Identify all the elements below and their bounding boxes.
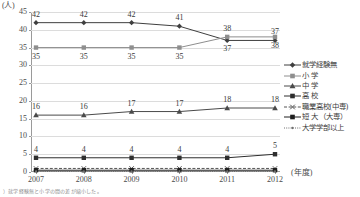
y-axis-tick-mark <box>29 172 31 173</box>
legend-item-5[interactable]: 短 大 （大専） <box>283 112 360 122</box>
legend-item-0[interactable]: 就学経験無 <box>283 60 360 70</box>
data-point-label: 37 <box>223 45 231 53</box>
x-axis-tick-label: 2009 <box>124 175 140 184</box>
data-point-label: 42 <box>32 11 40 19</box>
data-point-label: 41 <box>175 14 183 22</box>
legend-item-3[interactable]: 高 校 <box>283 91 360 101</box>
series-lines <box>31 12 280 172</box>
legend-label: 中 学 <box>302 82 318 90</box>
legend-label: 小 学 <box>302 72 318 80</box>
figure-footnote: ）就学経験無と小学の間の差が縮小した。 <box>3 189 102 195</box>
data-point-label: 18 <box>223 96 231 104</box>
y-axis-tick-label: 35 <box>19 44 27 52</box>
data-point-label: 18 <box>271 96 279 104</box>
legend-item-6[interactable]: 大学学部以上 <box>283 122 360 132</box>
data-point-label: 4 <box>34 146 38 154</box>
legend-marker-icon <box>283 102 302 112</box>
data-point-label: 16 <box>32 103 40 111</box>
legend-marker-icon <box>283 71 302 81</box>
legend-marker-icon <box>283 81 302 91</box>
legend-marker-icon <box>283 123 302 133</box>
y-axis-tick-label: 40 <box>19 26 27 34</box>
series-3 <box>34 152 277 160</box>
legend-item-2[interactable]: 中 学 <box>283 81 360 91</box>
data-point-label: 37 <box>271 28 279 36</box>
legend-marker-icon <box>283 60 302 70</box>
x-axis-tick-label: 2010 <box>171 175 187 184</box>
data-point-label: 4 <box>225 146 229 154</box>
x-axis-tick-label: 2012 <box>267 175 283 184</box>
legend-label: 短 大 （大専） <box>302 113 347 121</box>
y-axis-tick-label: 0 <box>23 168 27 176</box>
data-point-label: 38 <box>223 25 231 33</box>
y-axis-unit-label: (人) <box>2 1 14 10</box>
legend-label: 職業高校(中専) <box>302 103 348 111</box>
data-point-label: 17 <box>128 100 136 108</box>
y-axis-tick-label: 10 <box>19 132 27 140</box>
legend-marker-icon <box>283 91 302 101</box>
data-point-label: 4 <box>130 146 134 154</box>
data-point-label: 16 <box>80 103 88 111</box>
data-point-label: 4 <box>82 146 86 154</box>
y-axis-tick-label: 45 <box>19 8 27 16</box>
x-axis-tick-label: 2011 <box>219 175 235 184</box>
data-point-label: 35 <box>32 53 40 61</box>
x-axis-tick-label: 2008 <box>76 175 92 184</box>
legend-label: 高 校 <box>302 92 318 100</box>
y-axis-tick-label: 25 <box>19 79 27 87</box>
data-point-label: 5 <box>273 142 277 150</box>
y-axis-tick-label: 5 <box>23 150 27 158</box>
data-point-label: 42 <box>128 11 136 19</box>
data-point-label: 35 <box>128 53 136 61</box>
data-point-label: 35 <box>175 53 183 61</box>
data-point-label: 42 <box>80 11 88 19</box>
y-axis-tick-label: 20 <box>19 97 27 105</box>
y-axis-tick-label: 30 <box>19 61 27 69</box>
x-axis-unit-label: (年度) <box>291 168 312 177</box>
data-point-label: 35 <box>80 53 88 61</box>
data-point-label: 17 <box>175 100 183 108</box>
legend-marker-icon <box>283 112 302 122</box>
chart-figure: (人) 051015202530354045 20072008200920102… <box>0 0 360 197</box>
data-point-label: 4 <box>177 146 181 154</box>
chart-legend: 就学経験無小 学中 学高 校職業高校(中専)短 大 （大専）大学学部以上 <box>283 60 360 133</box>
legend-label: 大学学部以上 <box>302 124 343 132</box>
legend-item-4[interactable]: 職業高校(中専) <box>283 102 360 112</box>
series-0 <box>33 20 277 43</box>
plot-area: 051015202530354045 200720082009201020112… <box>31 12 280 172</box>
series-1 <box>34 35 277 50</box>
data-point-label: 38 <box>271 42 279 50</box>
legend-label: 就学経験無 <box>302 61 337 69</box>
series-2 <box>33 105 278 117</box>
x-axis-tick-label: 2007 <box>28 175 44 184</box>
legend-item-1[interactable]: 小 学 <box>283 70 360 80</box>
y-axis-tick-label: 15 <box>19 115 27 123</box>
